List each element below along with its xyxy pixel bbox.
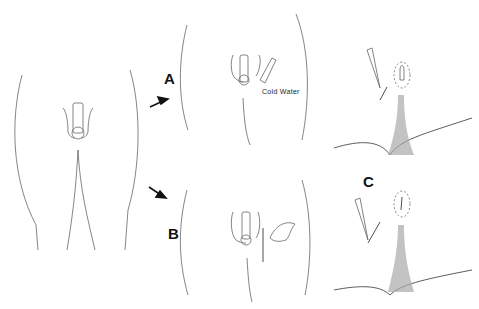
panel-label-a: A xyxy=(164,70,175,87)
base-figure xyxy=(15,70,138,250)
panel-label-c: C xyxy=(363,173,374,190)
diagram-canvas xyxy=(0,0,479,309)
panel-label-b: B xyxy=(168,225,179,242)
hair-texture xyxy=(388,95,414,292)
cold-water-annotation: Cold Water xyxy=(262,88,300,95)
panel-b-figure xyxy=(180,180,310,302)
panel-a-figure xyxy=(180,14,307,145)
arrows xyxy=(149,97,168,198)
